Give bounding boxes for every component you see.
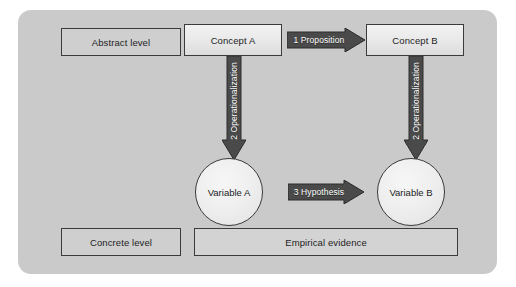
operationalization-a-arrow: 2 Operationalization bbox=[222, 56, 246, 160]
operationalization-b-label: 2 Operationalization bbox=[411, 62, 421, 140]
concept-b-label: Concept B bbox=[392, 35, 437, 46]
concept-b-box: Concept B bbox=[366, 24, 464, 56]
hypothesis-arrow: 3 Hypothesis bbox=[288, 180, 364, 204]
concrete-level-label: Concrete level bbox=[90, 237, 152, 248]
empirical-evidence-box: Empirical evidence bbox=[194, 228, 458, 256]
abstract-level-box: Abstract level bbox=[61, 28, 181, 56]
proposition-label: 1 Proposition bbox=[287, 35, 365, 45]
operationalization-b-arrow: 2 Operationalization bbox=[404, 56, 428, 160]
operationalization-a-label: 2 Operationalization bbox=[229, 62, 239, 140]
concept-a-label: Concept A bbox=[211, 35, 256, 46]
diagram-canvas: Abstract level Concrete level Concept A … bbox=[0, 0, 516, 287]
variable-b-label: Variable B bbox=[389, 187, 432, 198]
variable-a-label: Variable A bbox=[208, 187, 251, 198]
variable-a-circle: Variable A bbox=[195, 158, 263, 226]
variable-b-circle: Variable B bbox=[377, 158, 445, 226]
hypothesis-label: 3 Hypothesis bbox=[288, 187, 364, 197]
diagram-panel: Abstract level Concrete level Concept A … bbox=[18, 10, 497, 274]
concept-a-box: Concept A bbox=[184, 24, 282, 56]
empirical-evidence-label: Empirical evidence bbox=[285, 237, 367, 248]
abstract-level-label: Abstract level bbox=[92, 37, 150, 48]
concrete-level-box: Concrete level bbox=[61, 228, 181, 256]
proposition-arrow: 1 Proposition bbox=[287, 28, 365, 52]
